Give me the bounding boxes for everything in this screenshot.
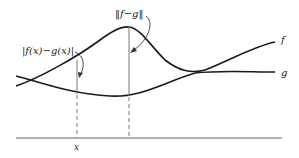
norm-leader-arrow (134, 16, 150, 50)
diagram-canvas: |f(x)−g(x)| ‖f−g‖ f g x (0, 0, 299, 158)
pointwise-arrowhead-icon (78, 72, 83, 78)
g-curve-label: g (281, 67, 287, 78)
x-point-label: x (74, 142, 79, 152)
f-curve (16, 27, 275, 86)
norm-diff-label: ‖f−g‖ (115, 8, 143, 20)
g-curve (16, 71, 275, 96)
pointwise-diff-label: |f(x)−g(x)| (22, 45, 74, 57)
f-curve-label: f (280, 34, 287, 45)
